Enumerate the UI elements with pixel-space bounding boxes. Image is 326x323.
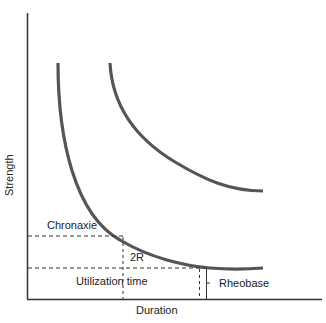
rheobase-label: Rheobase: [219, 278, 269, 289]
y-axis-label: Strength: [3, 154, 15, 196]
chronaxie-label: Chronaxie: [47, 220, 97, 231]
x-axis-label: Duration: [136, 305, 178, 316]
two-r-label: 2R: [130, 252, 144, 263]
utilization-time-label: Utilization time: [76, 276, 148, 287]
curve-lower: [58, 63, 263, 269]
strength-duration-diagram: [0, 0, 326, 323]
curve-upper: [110, 63, 263, 191]
